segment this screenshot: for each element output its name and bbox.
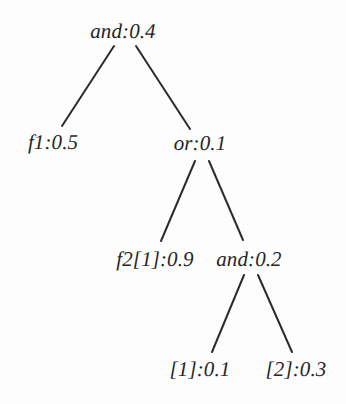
tree-node-n1: f1:0.5 [28,132,78,153]
tree-edge-n2-n3 [161,161,195,241]
tree-edges-layer [0,0,346,404]
tree-edge-n4-n6 [258,275,292,352]
tree-node-n3: f2[1]:0.9 [116,249,193,270]
tree-edge-n4-n5 [212,275,244,352]
tree-node-n6: [2]:0.3 [266,359,327,380]
edge-group [62,46,292,352]
tree-edge-n0-n2 [136,46,190,129]
tree-edge-n0-n1 [62,46,114,126]
tree-node-n4: and:0.2 [216,249,281,270]
expression-tree-figure: and:0.4f1:0.5or:0.1f2[1]:0.9and:0.2[1]:0… [0,0,346,404]
tree-node-n2: or:0.1 [174,133,227,154]
tree-edge-n2-n4 [209,161,243,240]
tree-node-n5: [1]:0.1 [170,359,231,380]
tree-node-n0: and:0.4 [90,21,155,42]
